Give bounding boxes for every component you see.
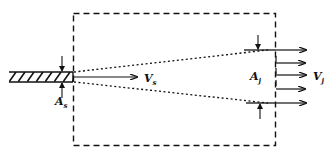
label-vj: Vj	[313, 70, 325, 85]
label-aj: Aj	[249, 70, 262, 85]
control-volume	[74, 14, 276, 146]
label-as: As	[54, 95, 68, 110]
jet-diagram: Vs As Aj Vj	[0, 0, 331, 153]
outflow-arrows	[276, 50, 306, 103]
nozzle	[9, 72, 73, 82]
label-vs: Vs	[144, 72, 157, 87]
